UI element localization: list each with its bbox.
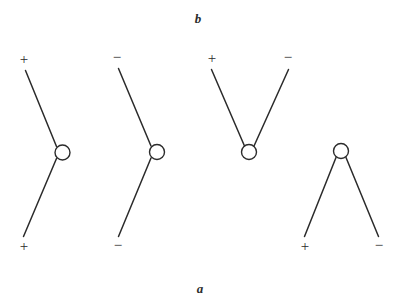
diagram-1: + + xyxy=(20,51,70,254)
diagram-3-sign-left: + xyxy=(208,50,216,66)
axis-label-a: a xyxy=(197,281,204,296)
diagram-1-upper-line xyxy=(26,71,57,147)
diagram-1-node-circle xyxy=(55,145,70,160)
diagram-4-sign-right: − xyxy=(375,237,383,253)
diagram-3-node-circle xyxy=(242,145,257,160)
diagram-3-sign-right: − xyxy=(284,49,292,65)
diagram-2-sign-top: − xyxy=(113,49,121,65)
diagram-4-sign-left: + xyxy=(301,238,309,254)
diagram-3-right-line xyxy=(254,70,289,147)
diagram-4-left-line xyxy=(305,158,337,237)
figure-container: b + + − − + − + xyxy=(0,0,403,308)
diagram-2-node-circle xyxy=(150,145,165,160)
diagram-1-lower-line xyxy=(24,159,57,237)
diagram-3: + − xyxy=(208,49,292,160)
diagram-3-left-line xyxy=(212,70,245,147)
diagram-2-sign-bottom: − xyxy=(114,237,122,253)
diagram-4: + − xyxy=(301,144,383,255)
diagram-1-sign-top: + xyxy=(20,51,28,67)
diagram-4-right-line xyxy=(346,158,379,237)
dipole-figure: b + + − − + − + xyxy=(0,0,403,308)
diagram-2-upper-line xyxy=(119,69,152,147)
axis-label-b: b xyxy=(195,11,202,26)
diagram-2: − − xyxy=(113,49,165,253)
diagram-2-lower-line xyxy=(119,158,152,237)
diagram-4-node-circle xyxy=(334,144,349,159)
diagram-1-sign-bottom: + xyxy=(20,238,28,254)
